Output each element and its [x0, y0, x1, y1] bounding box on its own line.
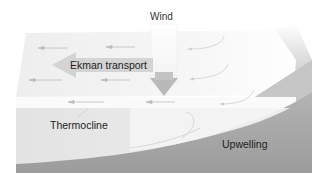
surface-band — [16, 97, 296, 109]
upwelling-diagram: Wind Ekman transport Thermocline Upwelli… — [0, 0, 328, 194]
wind-label: Wind — [150, 11, 173, 22]
upwelling-label: Upwelling — [222, 138, 268, 150]
thermocline-label: Thermocline — [50, 119, 108, 131]
diagram-canvas — [0, 0, 328, 194]
ekman-transport-label: Ekman transport — [70, 59, 147, 71]
